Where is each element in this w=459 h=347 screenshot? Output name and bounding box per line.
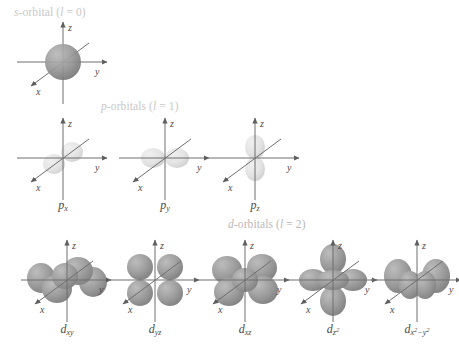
- axis-label-z: z: [249, 240, 254, 251]
- s-orbital-sphere: [45, 44, 81, 80]
- axis-label-z: z: [67, 22, 72, 33]
- dyz-sub: yz: [155, 328, 162, 337]
- orbital-pz: z y x: [209, 118, 299, 200]
- axis-label-y: y: [98, 284, 104, 295]
- axis-label-y: y: [94, 66, 100, 77]
- axis-label-z: z: [421, 240, 426, 251]
- orbital-dz2: z y x: [287, 240, 377, 322]
- dxz-sub: xz: [245, 328, 252, 337]
- dx2y2-sub-b-exp: 2: [426, 326, 429, 333]
- axes-cross-py: [119, 118, 209, 200]
- dxy-sub: xy: [66, 328, 73, 337]
- axis-label-x: x: [127, 304, 133, 315]
- py-sub: y: [166, 204, 170, 213]
- dz2-sub: z2: [333, 328, 339, 337]
- axis-label-z: z: [67, 118, 72, 129]
- pz-sub: z: [256, 204, 259, 213]
- axes-cross-px: [17, 118, 107, 200]
- axis-label-y: y: [276, 284, 282, 295]
- orbital-label-pz: pz: [250, 198, 259, 213]
- orbital-label-py: py: [160, 198, 170, 213]
- orbital-dxz: z y x: [199, 240, 289, 322]
- axis-label-z: z: [337, 240, 342, 251]
- orbital-dxy: z y x: [21, 240, 111, 322]
- axis-label-y: y: [196, 162, 202, 173]
- axis-label-z: z: [259, 118, 264, 129]
- dx2y2-sub-b: −y: [417, 328, 426, 337]
- orbital-py: z y x: [119, 118, 209, 200]
- axis-label-y: y: [286, 162, 292, 173]
- axis-label-y: y: [94, 162, 100, 173]
- axis-label-y: y: [448, 284, 454, 295]
- axis-label-z: z: [169, 118, 174, 129]
- axis-label-x: x: [39, 304, 45, 315]
- axis-label-y: y: [186, 284, 192, 295]
- orbital-diagram: s-orbital (l = 0) p-orbitals (l = 1) d-o…: [0, 0, 459, 347]
- axis-label-x: x: [35, 86, 41, 97]
- axes-cross-dyz: [109, 240, 199, 322]
- dz2-sub-exp: 2: [336, 326, 339, 333]
- axis-label-z: z: [71, 240, 76, 251]
- axis-label-x: x: [35, 182, 41, 193]
- axes-cross-dxz: [199, 240, 289, 322]
- axis-label-x: x: [305, 304, 311, 315]
- axis-label-x: x: [389, 304, 395, 315]
- axis-label-x: x: [227, 182, 233, 193]
- orbital-label-dxy: dxy: [60, 322, 73, 337]
- axis-label-z: z: [159, 240, 164, 251]
- dx2y2-sub: x2−y2: [410, 328, 429, 337]
- orbital-label-dxz: dxz: [239, 322, 252, 337]
- orbital-canvas: z y x z y x z y x: [0, 0, 459, 347]
- axes-cross-pz: [209, 118, 299, 200]
- orbital-px: z y x: [17, 118, 107, 200]
- axis-label-y: y: [364, 284, 370, 295]
- orbital-dx2y2: z y x: [371, 240, 459, 322]
- orbital-dyz: z y x: [109, 240, 199, 322]
- axis-label-x: x: [137, 182, 143, 193]
- axis-label-x: x: [217, 304, 223, 315]
- orbital-label-dz2: dz2: [327, 322, 339, 337]
- orbital-label-px: px: [58, 198, 68, 213]
- orbital-label-dx2y2: dx2−y2: [404, 322, 429, 337]
- px-sub: x: [64, 204, 68, 213]
- orbital-label-dyz: dyz: [149, 322, 162, 337]
- orbital-s: z y x: [17, 22, 107, 104]
